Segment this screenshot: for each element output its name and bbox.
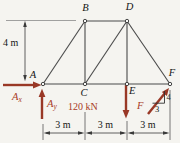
load-120kn-label: 120 kN xyxy=(68,101,98,112)
span3-arrow-right-icon xyxy=(163,131,170,134)
joint-D xyxy=(125,19,128,22)
span3-arrow-left-icon xyxy=(128,131,135,134)
force-f: F 4 3 xyxy=(136,88,172,114)
joint-A xyxy=(41,82,44,85)
member-AB xyxy=(43,21,85,84)
joint-C xyxy=(83,82,86,85)
span1-arrow-left-icon xyxy=(44,131,51,134)
reaction-ay-label: Ay xyxy=(46,98,57,111)
member-DF xyxy=(127,21,170,84)
truss-figure: 4 m Ax Ay 120 kN F 4 3 xyxy=(0,0,180,143)
truss-diagram: 4 m Ax Ay 120 kN F 4 3 xyxy=(0,0,180,143)
reaction-ay-label-sub: y xyxy=(52,102,57,111)
label-C: C xyxy=(80,87,88,98)
reaction-ax: Ax xyxy=(3,82,42,104)
label-E: E xyxy=(128,85,136,96)
joint-B xyxy=(83,19,86,22)
span3-label: 3 m xyxy=(140,119,156,130)
height-dim-label: 4 m xyxy=(3,37,19,48)
label-D: D xyxy=(125,1,134,12)
span1-arrow-right-icon xyxy=(78,131,85,134)
dim-arrow-up-icon xyxy=(23,21,27,27)
bottom-dimension: 3 m 3 m 3 m xyxy=(43,90,170,140)
reaction-ay: Ay xyxy=(39,89,58,119)
joint-F xyxy=(168,82,171,85)
load-120kn-arrowhead-icon xyxy=(123,110,130,119)
truss-members xyxy=(43,21,170,84)
force-f-label: F xyxy=(136,100,144,111)
reaction-ay-arrowhead-icon xyxy=(39,89,46,97)
span2-arrow-right-icon xyxy=(120,131,127,134)
label-B: B xyxy=(82,2,89,13)
span2-arrow-left-icon xyxy=(86,131,93,134)
reaction-ax-label-sub: x xyxy=(17,95,22,104)
reaction-ax-arrowhead-icon xyxy=(33,82,42,89)
label-F: F xyxy=(168,67,176,78)
label-A: A xyxy=(29,69,37,80)
reaction-ax-label: Ax xyxy=(11,91,22,104)
load-120kn: 120 kN xyxy=(68,85,129,119)
span1-label: 3 m xyxy=(55,119,71,130)
span2-label: 3 m xyxy=(98,119,114,130)
height-dimension: 4 m xyxy=(3,21,27,82)
dim-arrow-down-icon xyxy=(23,75,27,81)
member-CD xyxy=(85,21,127,84)
slope-run-label: 3 xyxy=(155,104,159,114)
slope-rise-label: 4 xyxy=(167,92,172,102)
